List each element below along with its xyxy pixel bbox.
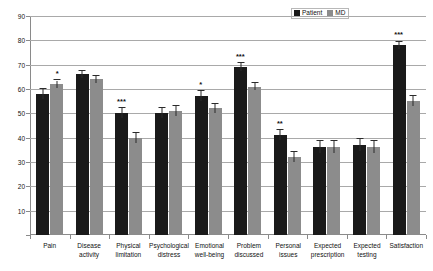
bar-md[interactable] — [129, 138, 142, 235]
significance-marker: * — [199, 81, 202, 89]
bar-wrapper — [209, 108, 222, 235]
x-axis-label: Pain — [30, 242, 69, 259]
bar-wrapper — [313, 147, 326, 235]
bar-group: ** — [268, 16, 308, 235]
error-bar-cap — [356, 138, 363, 139]
bar-md[interactable] — [248, 87, 261, 235]
error-bar — [42, 89, 43, 99]
bar-md[interactable] — [209, 108, 222, 235]
bar-group: *** — [109, 16, 149, 235]
error-bar-cap — [396, 41, 403, 42]
bar-md[interactable] — [90, 79, 103, 235]
bar-wrapper — [155, 113, 168, 235]
bar-patient[interactable] — [234, 67, 247, 235]
bar-md[interactable] — [50, 84, 63, 235]
error-bar — [333, 141, 334, 153]
x-axis-tick — [228, 235, 229, 239]
bar-group — [347, 16, 387, 235]
error-bar — [413, 96, 414, 106]
error-bar — [399, 42, 400, 49]
bar-group: *** — [386, 16, 426, 235]
bar-patient[interactable] — [115, 113, 128, 235]
error-bar — [359, 139, 360, 151]
bar-wrapper — [407, 101, 420, 235]
x-axis-label: Problemdiscussed — [229, 242, 268, 259]
error-bar-cap — [118, 107, 125, 108]
bar-wrapper — [274, 135, 287, 235]
bar-patient[interactable] — [155, 113, 168, 235]
bar-md[interactable] — [288, 157, 301, 235]
x-axis-label: Physicallimitation — [109, 242, 148, 259]
error-bar-cap — [410, 95, 417, 96]
error-bar-cap — [212, 103, 219, 104]
significance-marker: *** — [236, 53, 245, 61]
error-bar-cap — [158, 107, 165, 108]
x-axis-tick — [268, 235, 269, 239]
error-bar-cap — [277, 129, 284, 130]
error-bar-cap — [198, 90, 205, 91]
bar-wrapper — [288, 157, 301, 235]
x-axis-label: Diseaseactivity — [69, 242, 108, 259]
bar-group — [70, 16, 110, 235]
error-bar — [96, 76, 97, 83]
error-bar-cap — [316, 140, 323, 141]
bar-wrapper — [393, 45, 406, 235]
bar-groups: ************* — [30, 16, 426, 235]
error-bar-cap — [291, 151, 298, 152]
bar-patient[interactable] — [313, 147, 326, 235]
bar-patient[interactable] — [36, 94, 49, 235]
y-axis-tick-label: 80 — [18, 37, 25, 44]
error-bar — [161, 108, 162, 118]
bar-patient[interactable] — [76, 74, 89, 235]
x-axis-label: Satisfaction — [387, 242, 426, 259]
x-axis-label: Emotionalwell-being — [190, 242, 229, 259]
bar-patient[interactable] — [393, 45, 406, 235]
bar-patient[interactable] — [195, 96, 208, 235]
error-bar — [254, 83, 255, 90]
error-bar — [175, 106, 176, 116]
error-bar — [56, 81, 57, 88]
bar-wrapper — [50, 84, 63, 235]
error-bar-cap — [79, 70, 86, 71]
bar-patient[interactable] — [353, 145, 366, 235]
y-axis-tick-label: 20 — [18, 183, 25, 190]
error-bar-cap — [39, 88, 46, 89]
bar-md[interactable] — [169, 111, 182, 235]
error-bar — [121, 108, 122, 118]
bar-wrapper — [195, 96, 208, 235]
significance-marker: *** — [117, 98, 126, 106]
error-bar-cap — [370, 140, 377, 141]
bar-group: *** — [228, 16, 268, 235]
x-axis-ticks — [30, 235, 426, 239]
x-axis-tick — [109, 235, 110, 239]
x-axis-tick — [149, 235, 150, 239]
bar-patient[interactable] — [274, 135, 287, 235]
x-axis-label: Personalissues — [269, 242, 308, 259]
significance-marker: * — [56, 70, 59, 78]
x-axis-label: Psychologicaldistress — [148, 242, 190, 259]
x-axis-tick — [307, 235, 308, 239]
plot-area: 102030405060708090 ************* — [30, 16, 426, 235]
error-bar-cap — [53, 79, 60, 80]
y-axis-tick-label: 70 — [18, 61, 25, 68]
y-axis-tick-label: 60 — [18, 86, 25, 93]
x-axis-tick — [386, 235, 387, 239]
bar-wrapper — [129, 138, 142, 235]
x-axis-tick — [347, 235, 348, 239]
error-bar-cap — [172, 105, 179, 106]
bar-wrapper — [367, 147, 380, 235]
x-axis-tick — [70, 235, 71, 239]
bar-wrapper — [327, 147, 340, 235]
bar-wrapper — [353, 145, 366, 235]
error-bar — [373, 141, 374, 153]
bar-wrapper — [169, 111, 182, 235]
bar-group — [149, 16, 189, 235]
bar-wrapper — [234, 67, 247, 235]
y-axis-tick-label: 10 — [18, 207, 25, 214]
bar-md[interactable] — [367, 147, 380, 235]
error-bar — [240, 63, 241, 70]
bar-md[interactable] — [327, 147, 340, 235]
bar-md[interactable] — [407, 101, 420, 235]
bar-wrapper — [76, 74, 89, 235]
bar-group: * — [188, 16, 228, 235]
